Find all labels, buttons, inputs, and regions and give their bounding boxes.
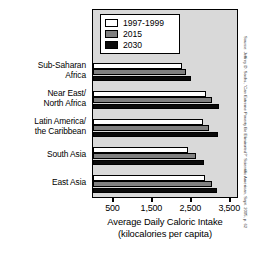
x-axis-tick — [229, 198, 230, 202]
category-label: Latin America/the Caribbean — [0, 117, 86, 136]
bar — [93, 104, 219, 110]
legend-item-2030: 2030 — [105, 40, 175, 50]
plot-area: 1997-1999 2015 2030 — [92, 9, 238, 198]
bar — [93, 76, 191, 82]
bar-group — [93, 91, 237, 113]
x-axis-tick-label: 1,500 — [131, 203, 171, 213]
x-axis-title: Average Daily Caloric Intake (kilocalori… — [75, 216, 255, 239]
bar — [93, 63, 182, 69]
bar-group — [93, 63, 237, 85]
bar-group — [93, 147, 237, 169]
category-label-line: Africa — [0, 71, 86, 81]
x-axis-tick — [151, 198, 152, 202]
legend-item-2015: 2015 — [105, 29, 175, 39]
bar — [93, 119, 203, 125]
bar-group — [93, 175, 237, 197]
bar — [93, 153, 196, 159]
legend-label: 1997-1999 — [123, 19, 164, 28]
x-axis-title-line1: Average Daily Caloric Intake — [75, 216, 255, 228]
category-label: South Asia — [0, 150, 86, 160]
bar — [93, 175, 205, 181]
x-axis-tick — [190, 198, 191, 202]
bar — [93, 147, 188, 153]
bar — [93, 69, 186, 75]
category-label-line: the Caribbean — [0, 127, 86, 137]
category-label: Sub-SaharanAfrica — [0, 61, 86, 80]
chart-figure: Sub-SaharanAfricaNear East/North AfricaL… — [0, 0, 279, 254]
legend-swatch-icon — [105, 41, 118, 49]
bar — [93, 91, 206, 97]
x-axis-tick — [112, 198, 113, 202]
category-label: Near East/North Africa — [0, 89, 86, 108]
legend-swatch-icon — [105, 30, 118, 38]
bar — [93, 132, 218, 138]
source-credit: Source: Jeffrey D. Sachs, "Can Extreme P… — [243, 36, 248, 186]
legend-label: 2030 — [123, 41, 142, 50]
bar — [93, 97, 212, 103]
bar-group — [93, 119, 237, 141]
x-axis-title-line2: (kilocalories per capita) — [75, 228, 255, 240]
category-label-line: East Asia — [0, 178, 86, 188]
category-label-line: North Africa — [0, 99, 86, 109]
category-axis-labels: Sub-SaharanAfricaNear East/North AfricaL… — [0, 55, 88, 200]
bar — [93, 181, 212, 187]
legend-label: 2015 — [123, 30, 142, 39]
x-axis-tick-label: 500 — [92, 203, 132, 213]
category-label-line: South Asia — [0, 150, 86, 160]
legend-item-1997-1999: 1997-1999 — [105, 18, 175, 28]
legend-swatch-icon — [105, 19, 118, 27]
bar — [93, 160, 204, 166]
x-axis-tick-label: 2,500 — [170, 203, 210, 213]
bar — [93, 125, 209, 131]
category-label: East Asia — [0, 178, 86, 188]
chart-legend: 1997-1999 2015 2030 — [100, 14, 180, 54]
bar — [93, 188, 217, 194]
